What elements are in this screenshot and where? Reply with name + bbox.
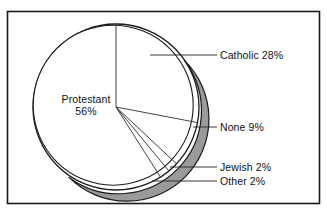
slice-label-jewish: Jewish 2% bbox=[220, 161, 271, 173]
slice-label-catholic: Catholic 28% bbox=[220, 49, 283, 61]
slice-label-protestant-line1: Protestant bbox=[62, 93, 111, 105]
slice-label-none: None 9% bbox=[220, 121, 264, 133]
slice-label-protestant-line2: 56% bbox=[43, 105, 129, 117]
slice-label-other: Other 2% bbox=[220, 175, 265, 187]
slice-label-protestant: Protestant 56% bbox=[43, 93, 129, 118]
pie-chart-figure: Catholic 28% None 9% Jewish 2% Other 2% … bbox=[0, 0, 327, 215]
